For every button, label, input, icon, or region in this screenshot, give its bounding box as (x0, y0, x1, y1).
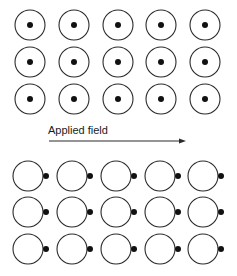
displaced-nucleus-dot-icon (87, 246, 93, 252)
nucleus-dot-icon (71, 22, 77, 28)
displaced-nucleus-dot-icon (43, 173, 49, 179)
displaced-nucleus-dot-icon (175, 246, 181, 252)
electron-cloud-circle (101, 197, 131, 227)
electron-cloud-circle (188, 234, 218, 264)
electron-cloud-circle (13, 161, 43, 191)
unpolarized-atom-grid (15, 10, 220, 114)
nucleus-dot-icon (27, 22, 33, 28)
polarized-atom-grid (13, 161, 224, 264)
electron-cloud-circle (145, 161, 175, 191)
electron-cloud-circle (13, 234, 43, 264)
displaced-nucleus-dot-icon (218, 173, 224, 179)
nucleus-dot-icon (27, 96, 33, 102)
displaced-nucleus-dot-icon (43, 209, 49, 215)
nucleus-dot-icon (158, 59, 164, 65)
displaced-nucleus-dot-icon (175, 173, 181, 179)
nucleus-dot-icon (71, 59, 77, 65)
electron-cloud-circle (101, 234, 131, 264)
applied-field-label: Applied field (48, 124, 108, 136)
electron-cloud-circle (188, 197, 218, 227)
displaced-nucleus-dot-icon (131, 209, 137, 215)
electron-cloud-circle (57, 197, 87, 227)
nucleus-dot-icon (115, 22, 121, 28)
nucleus-dot-icon (27, 59, 33, 65)
displaced-nucleus-dot-icon (175, 209, 181, 215)
displaced-nucleus-dot-icon (43, 246, 49, 252)
nucleus-dot-icon (115, 96, 121, 102)
displaced-nucleus-dot-icon (218, 209, 224, 215)
nucleus-dot-icon (71, 96, 77, 102)
nucleus-dot-icon (158, 22, 164, 28)
displaced-nucleus-dot-icon (87, 209, 93, 215)
electron-cloud-circle (145, 234, 175, 264)
arrowhead-icon (179, 139, 186, 144)
electron-cloud-circle (13, 197, 43, 227)
electron-cloud-circle (101, 161, 131, 191)
electron-cloud-circle (57, 161, 87, 191)
nucleus-dot-icon (115, 59, 121, 65)
electron-cloud-circle (57, 234, 87, 264)
polarization-diagram (0, 0, 237, 276)
displaced-nucleus-dot-icon (218, 246, 224, 252)
displaced-nucleus-dot-icon (87, 173, 93, 179)
electron-cloud-circle (188, 161, 218, 191)
nucleus-dot-icon (202, 22, 208, 28)
nucleus-dot-icon (202, 59, 208, 65)
nucleus-dot-icon (158, 96, 164, 102)
displaced-nucleus-dot-icon (131, 173, 137, 179)
nucleus-dot-icon (202, 96, 208, 102)
displaced-nucleus-dot-icon (131, 246, 137, 252)
electron-cloud-circle (145, 197, 175, 227)
applied-field-arrow (49, 139, 186, 144)
